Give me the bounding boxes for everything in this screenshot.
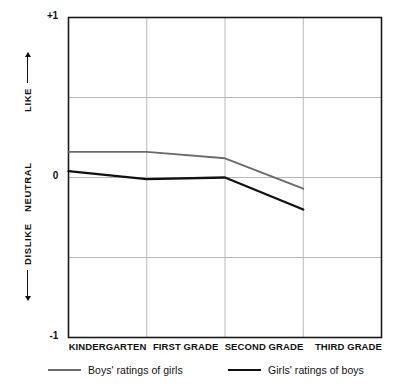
x-axis-labels: KINDERGARTENFIRST GRADESECOND GRADETHIRD…: [0, 341, 398, 357]
legend-entry-0[interactable]: Boys' ratings of girls: [48, 364, 183, 376]
series-line-1: [69, 171, 304, 209]
y-axis-label-dislike-text: DISLIKE: [22, 223, 33, 265]
series-layer: [69, 152, 304, 210]
chart-figure: +1 0 -1 LIKE NEUTRAL DISLIKE KINDERGARTE…: [0, 0, 398, 388]
legend-label: Girls' ratings of boys: [268, 364, 364, 376]
y-axis-tick-zero: 0: [32, 170, 58, 181]
y-axis-tick-top: +1: [32, 10, 58, 21]
x-axis-tick-label: FIRST GRADE: [153, 341, 219, 352]
y-axis-label-like-text: LIKE: [22, 88, 33, 112]
y-axis-label-neutral: NEUTRAL: [22, 162, 33, 212]
legend-swatch-line-icon: [228, 369, 261, 372]
y-axis-label-dislike: DISLIKE: [22, 223, 33, 300]
x-axis-tick-label: SECOND GRADE: [225, 341, 304, 352]
chart-legend: Boys' ratings of girlsGirls' ratings of …: [0, 364, 398, 384]
x-axis-tick-label: KINDERGARTEN: [69, 341, 147, 352]
y-axis-tick-bottom: -1: [32, 330, 58, 341]
legend-entry-1[interactable]: Girls' ratings of boys: [228, 364, 364, 376]
plot-area: [0, 0, 398, 388]
x-axis-tick-label: THIRD GRADE: [315, 341, 382, 352]
series-line-0: [69, 152, 304, 189]
legend-label: Boys' ratings of girls: [88, 364, 183, 376]
y-axis-label-like: LIKE: [22, 53, 33, 112]
legend-swatch-line-icon: [48, 369, 81, 371]
arrow-up-icon: [27, 53, 28, 83]
arrow-down-icon: [27, 270, 28, 300]
y-axis-label-neutral-text: NEUTRAL: [22, 162, 33, 212]
